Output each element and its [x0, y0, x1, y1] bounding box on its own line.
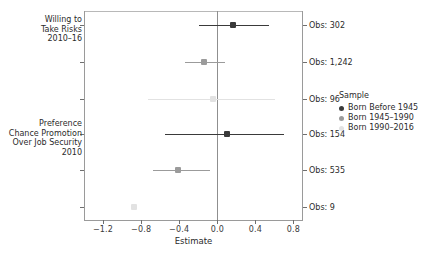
- legend-swatch-icon-0: [339, 106, 344, 111]
- estimate-point-0: [230, 22, 236, 28]
- legend-label-0: Born Before 1945: [348, 103, 418, 113]
- y-tick-1: [303, 62, 307, 63]
- x-tick-label-5: 0.8: [273, 225, 313, 234]
- estimate-point-5: [131, 204, 137, 210]
- obs-annotation-5: Obs: 9: [309, 203, 335, 212]
- estimate-point-4: [175, 167, 181, 173]
- y-axis-label-group-0: Willing to Take Risks 2010–16: [41, 15, 82, 44]
- plot-area: [84, 11, 303, 220]
- estimate-point-1: [201, 59, 207, 65]
- y-tick-2: [303, 99, 307, 100]
- y-axis-label-group-1: Preference Chance Promotion Over Job Sec…: [9, 119, 82, 157]
- legend-item-0[interactable]: Born Before 1945: [339, 103, 418, 113]
- x-tick-label-1: −0.8: [121, 225, 161, 234]
- coefficient-plot: −1.2−0.8−0.40.00.40.8 Estimate Willing t…: [0, 0, 421, 256]
- panel-bottom-rule: [84, 220, 303, 221]
- y-tick-4: [80, 170, 84, 171]
- confidence-interval-4: [153, 170, 210, 171]
- x-tick-label-3: 0.0: [197, 225, 237, 234]
- y-tick-4: [303, 170, 307, 171]
- legend-title: Sample: [339, 91, 418, 100]
- legend-items: Born Before 1945Born 1945–1990Born 1990–…: [339, 103, 418, 133]
- x-tick-label-4: 0.4: [235, 225, 275, 234]
- estimate-point-2: [210, 96, 216, 102]
- x-tick-2: [179, 220, 180, 224]
- legend-item-1[interactable]: Born 1945–1990: [339, 113, 418, 123]
- obs-annotation-4: Obs: 535: [309, 166, 345, 175]
- legend-swatch-icon-1: [339, 116, 344, 121]
- x-axis-title: Estimate: [84, 236, 303, 246]
- y-tick-3: [303, 134, 307, 135]
- x-tick-label-0: −1.2: [83, 225, 123, 234]
- zero-reference-line: [217, 11, 218, 220]
- y-tick-5: [80, 207, 84, 208]
- y-tick-0: [303, 25, 307, 26]
- legend-swatch-icon-2: [339, 126, 344, 131]
- legend: Sample Born Before 1945Born 1945–1990Bor…: [339, 91, 418, 133]
- obs-annotation-2: Obs: 96: [309, 95, 340, 104]
- y-tick-1: [80, 62, 84, 63]
- estimate-point-3: [224, 131, 230, 137]
- x-tick-5: [293, 220, 294, 224]
- legend-label-2: Born 1990–2016: [348, 123, 414, 133]
- y-tick-5: [303, 207, 307, 208]
- y-tick-2: [80, 99, 84, 100]
- x-tick-0: [103, 220, 104, 224]
- x-tick-4: [255, 220, 256, 224]
- legend-item-2[interactable]: Born 1990–2016: [339, 123, 418, 133]
- obs-annotation-1: Obs: 1,242: [309, 58, 353, 67]
- legend-label-1: Born 1945–1990: [348, 113, 414, 123]
- x-tick-label-2: −0.4: [159, 225, 199, 234]
- x-tick-3: [217, 220, 218, 224]
- obs-annotation-0: Obs: 302: [309, 21, 345, 30]
- x-tick-1: [141, 220, 142, 224]
